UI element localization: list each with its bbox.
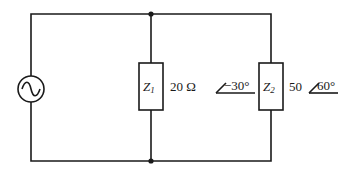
circuit-diagram: Z1 20 Ω −30° Z2 50 60° xyxy=(0,0,351,170)
z2-angle: 60° xyxy=(309,78,338,93)
z1-magnitude: 20 Ω xyxy=(170,79,196,94)
svg-text:−30°: −30° xyxy=(224,78,250,93)
top-junction-dot xyxy=(148,11,153,16)
bottom-junction-dot xyxy=(148,158,153,163)
svg-text:60°: 60° xyxy=(317,78,335,93)
ac-source-icon xyxy=(18,76,44,102)
impedance-z2: Z2 xyxy=(259,63,283,110)
impedance-z1: Z1 xyxy=(139,63,163,110)
z1-angle: −30° xyxy=(216,78,255,93)
z2-magnitude: 50 xyxy=(289,79,302,94)
